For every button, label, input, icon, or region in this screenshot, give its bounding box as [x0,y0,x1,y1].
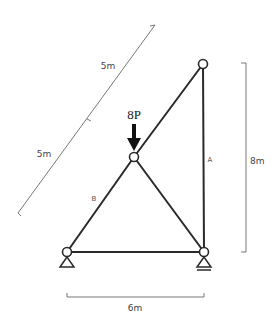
node-bottom-left [63,248,72,257]
dim-label-horizontal: 6m [128,303,143,313]
dimension-line-vertical [241,63,246,252]
dim-label-vertical: 8m [250,156,265,166]
load-arrow-icon [127,124,141,151]
dim-label-diagonal-upper: 5m [101,61,116,71]
node-top-middle [130,153,139,162]
member-label-a: A [208,156,213,164]
member-a [203,64,204,252]
member-upper-diagonal [134,64,203,157]
member-b [67,157,134,252]
dim-label-diagonal-lower: 5m [37,149,52,159]
truss-diagram: 8P B A 5m 5m 8m 6m [0,0,274,327]
roller-support-icon [197,257,211,267]
load-label: 8P [127,107,141,122]
node-bottom-right [200,248,209,257]
dimension-line-horizontal [67,293,204,297]
member-label-b: B [92,195,97,203]
pin-support-icon [60,257,74,267]
dimension-tick-mid [87,119,91,121]
member-diagonal-right [134,157,204,252]
node-top-right [199,60,208,69]
